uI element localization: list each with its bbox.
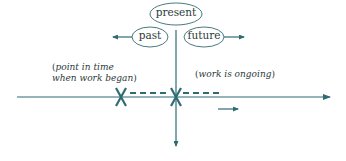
start-note-close-paren: ) — [133, 73, 137, 83]
past-label: past — [132, 29, 168, 41]
start-note: (point in time when work began) — [52, 62, 172, 84]
future-label: future — [184, 29, 224, 41]
present-label: present — [150, 6, 202, 18]
start-note-line1: point in time — [56, 62, 114, 72]
ongoing-note-text: work is ongoing — [199, 69, 272, 79]
ongoing-note-close-paren: ) — [271, 69, 275, 79]
start-note-line2: when work began — [52, 73, 133, 83]
ongoing-note: (work is ongoing) — [195, 69, 315, 80]
